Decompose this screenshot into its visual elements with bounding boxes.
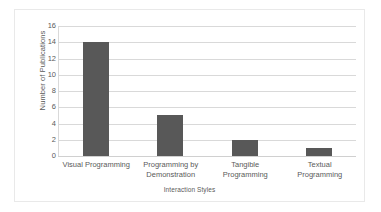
y-axis-tick-label: 6 bbox=[36, 104, 56, 112]
x-axis-category-labels: Visual ProgrammingProgramming by Demonst… bbox=[59, 160, 357, 180]
y-axis-tick-label: 8 bbox=[36, 87, 56, 95]
bar-slot bbox=[59, 26, 133, 156]
x-axis-category-label: Visual Programming bbox=[59, 160, 134, 180]
x-axis-title: Interaction Styles bbox=[15, 186, 364, 193]
y-axis-tick-label: 14 bbox=[36, 39, 56, 47]
x-axis-category-label: Tangible Programming bbox=[208, 160, 283, 180]
bar[interactable] bbox=[83, 42, 109, 156]
x-axis-category-label: Programming by Demonstration bbox=[134, 160, 209, 180]
plot-area: 0246810121416 bbox=[58, 26, 356, 156]
bar-slot bbox=[282, 26, 356, 156]
bar[interactable] bbox=[157, 115, 183, 156]
x-axis-category-label: Textual Programming bbox=[283, 160, 358, 180]
bar[interactable] bbox=[306, 148, 332, 156]
bar-series bbox=[59, 26, 356, 156]
y-axis-tick-label: 10 bbox=[36, 71, 56, 79]
y-axis-tick-label: 4 bbox=[36, 120, 56, 128]
y-axis-tick-label: 16 bbox=[36, 22, 56, 30]
y-axis-tick-labels: 0246810121416 bbox=[36, 26, 56, 156]
bar[interactable] bbox=[232, 140, 258, 156]
bar-slot bbox=[133, 26, 207, 156]
y-axis-tick-label: 0 bbox=[36, 152, 56, 160]
gridline bbox=[58, 156, 356, 157]
y-axis-tick-label: 12 bbox=[36, 55, 56, 63]
y-axis-tick-label: 2 bbox=[36, 136, 56, 144]
chart-container: Number of Publications 0246810121416 Vis… bbox=[14, 9, 365, 202]
bar-slot bbox=[208, 26, 282, 156]
